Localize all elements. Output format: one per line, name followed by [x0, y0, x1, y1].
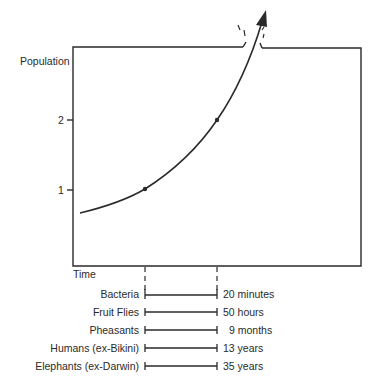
- y-tick-label-1: 1: [58, 184, 64, 196]
- chart-frame: [73, 42, 361, 266]
- frame-break-left: [243, 42, 246, 47]
- bar-bacteria: [145, 289, 217, 299]
- arrowhead-icon: [256, 10, 267, 27]
- point-population-2: [215, 118, 219, 122]
- y-ticks: [67, 120, 73, 190]
- y-tick-label-2: 2: [58, 114, 64, 126]
- bar-pheasants: [145, 326, 217, 334]
- organism-label-fruit-flies: Fruit Flies: [93, 306, 139, 318]
- bar-humans: [145, 344, 217, 352]
- bar-elephants: [145, 362, 217, 370]
- doubling-time-bacteria: 20 minutes: [223, 288, 274, 300]
- doubling-time-fruit-flies: 50 hours: [223, 306, 264, 318]
- x-axis-label: Time: [73, 268, 96, 280]
- doubling-guides: [145, 267, 217, 292]
- doubling-time-humans: 13 years: [223, 342, 263, 354]
- interval-bars: [145, 289, 217, 370]
- bar-fruit-flies: [145, 308, 217, 316]
- organism-label-bacteria: Bacteria: [100, 288, 139, 300]
- organism-label-pheasants: Pheasants: [89, 324, 139, 336]
- growth-curve: [80, 22, 262, 213]
- point-population-1: [143, 187, 147, 191]
- doubling-time-elephants: 35 years: [223, 360, 263, 372]
- organism-label-elephants: Elephants (ex-Darwin): [35, 360, 139, 372]
- chart-border: [73, 47, 361, 266]
- y-axis-label: Population: [20, 55, 70, 67]
- doubling-time-pheasants: 9 months: [229, 324, 272, 336]
- frame-break-right: [260, 43, 262, 48]
- organism-label-humans: Humans (ex-Bikini): [50, 342, 139, 354]
